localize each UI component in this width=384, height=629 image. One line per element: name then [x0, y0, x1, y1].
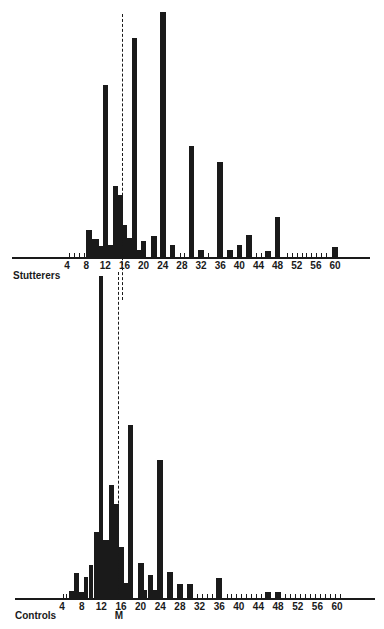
controls-zero-tick	[197, 594, 198, 598]
controls-zero-tick	[330, 594, 331, 598]
controls-zero-tick	[320, 594, 321, 598]
stutterers-tick-label: 12	[100, 260, 111, 271]
controls-zero-tick	[261, 594, 262, 598]
stutterers-zero-tick	[74, 253, 75, 257]
controls-zero-tick	[63, 594, 64, 598]
stutterers-tick-label: 40	[234, 260, 245, 271]
stutterers-group-label: Stutterers	[13, 270, 60, 281]
stutterers-zero-tick	[287, 253, 288, 257]
stutterers-zero-tick	[306, 253, 307, 257]
controls-zero-tick	[315, 594, 316, 598]
controls-bar	[275, 592, 281, 598]
controls-group-label: Controls	[15, 610, 56, 621]
controls-zero-tick	[202, 594, 203, 598]
controls-zero-tick	[66, 594, 67, 598]
controls-tick-label: 4	[59, 601, 65, 612]
stutterers-bar	[141, 241, 147, 257]
controls-mean-line	[118, 272, 119, 598]
controls-zero-tick	[325, 594, 326, 598]
stutterers-zero-tick	[261, 253, 262, 257]
controls-zero-tick	[207, 594, 208, 598]
stutterers-bar	[332, 247, 338, 257]
controls-zero-tick	[236, 594, 237, 598]
controls-zero-tick	[300, 594, 301, 598]
stutterers-tick-label: 60	[330, 260, 341, 271]
stutterers-tick-label: 16	[119, 260, 130, 271]
stutterers-zero-tick	[292, 253, 293, 257]
controls-zero-tick	[290, 594, 291, 598]
stutterers-tick-label: 48	[272, 260, 283, 271]
stutterers-tick-label: 36	[215, 260, 226, 271]
stutterers-zero-tick	[184, 253, 185, 257]
stutterers-bar	[132, 38, 137, 257]
controls-zero-tick	[246, 594, 247, 598]
stutterers-zero-tick	[208, 253, 209, 257]
stutterers-tick-label: 56	[310, 260, 321, 271]
controls-zero-tick	[310, 594, 311, 598]
stutterers-bar	[103, 85, 108, 257]
stutterers-tick-label: 52	[291, 260, 302, 271]
stutterers-bar	[275, 217, 281, 257]
controls-zero-tick	[212, 594, 213, 598]
stutterers-bar	[160, 12, 166, 257]
controls-zero-tick	[335, 594, 336, 598]
controls-tick-label: 12	[96, 601, 107, 612]
controls-zero-tick	[340, 594, 341, 598]
controls-bar	[157, 460, 163, 598]
controls-bar	[265, 592, 271, 598]
stutterers-bar	[189, 146, 195, 257]
controls-tick-label: 60	[331, 601, 342, 612]
controls-bar	[177, 584, 183, 598]
controls-tick-label: 36	[214, 601, 225, 612]
controls-x-axis	[15, 598, 375, 600]
mean-label: M	[115, 610, 123, 621]
stutterers-mean-line	[122, 14, 123, 300]
stutterers-bar	[151, 236, 157, 257]
controls-bar	[167, 572, 173, 598]
stutterers-bar	[170, 245, 176, 257]
stutterers-bar	[198, 250, 204, 257]
stutterers-tick-label: 28	[176, 260, 187, 271]
stutterers-bar	[265, 251, 271, 257]
controls-zero-tick	[227, 594, 228, 598]
stutterers-tick-label: 44	[253, 260, 264, 271]
stutterers-tick-label: 32	[196, 260, 207, 271]
controls-zero-tick	[295, 594, 296, 598]
stutterers-x-axis	[12, 257, 370, 259]
controls-zero-tick	[256, 594, 257, 598]
controls-zero-tick	[285, 594, 286, 598]
controls-tick-label: 56	[312, 601, 323, 612]
controls-tick-label: 24	[155, 601, 166, 612]
controls-tick-label: 32	[194, 601, 205, 612]
stutterers-zero-tick	[84, 253, 85, 257]
stutterers-bar	[217, 162, 223, 257]
stutterers-zero-tick	[326, 253, 327, 257]
controls-zero-tick	[231, 594, 232, 598]
stutterers-bar	[246, 235, 252, 257]
controls-bar	[128, 425, 133, 598]
controls-tick-label: 28	[174, 601, 185, 612]
stutterers-tick-label: 20	[138, 260, 149, 271]
controls-tick-label: 8	[79, 601, 85, 612]
stutterers-tick-label: 4	[64, 260, 70, 271]
stutterers-zero-tick	[297, 253, 298, 257]
controls-zero-tick	[305, 594, 306, 598]
controls-zero-tick	[241, 594, 242, 598]
controls-bar	[187, 584, 193, 598]
controls-bar	[216, 578, 222, 598]
stutterers-zero-tick	[311, 253, 312, 257]
stutterers-zero-tick	[316, 253, 317, 257]
controls-zero-tick	[251, 594, 252, 598]
stutterers-tick-label: 8	[83, 260, 89, 271]
controls-tick-label: 40	[233, 601, 244, 612]
stutterers-tick-label: 24	[157, 260, 168, 271]
controls-tick-label: 52	[292, 601, 303, 612]
stutterers-zero-tick	[180, 253, 181, 257]
controls-tick-label: 44	[253, 601, 264, 612]
stutterers-zero-tick	[302, 253, 303, 257]
stutterers-zero-tick	[321, 253, 322, 257]
stutterers-zero-tick	[79, 253, 80, 257]
controls-tick-label: 20	[135, 601, 146, 612]
stutterers-bar	[227, 250, 233, 257]
stutterers-zero-tick	[69, 253, 70, 257]
